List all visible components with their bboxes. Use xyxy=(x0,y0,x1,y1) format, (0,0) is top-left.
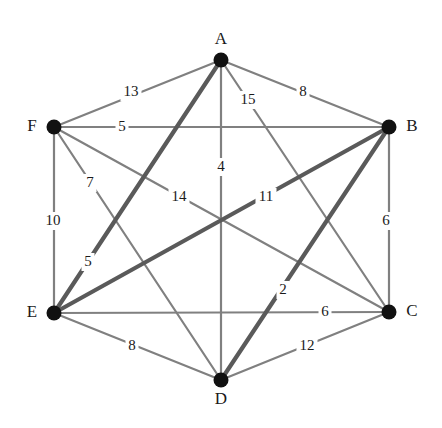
edge-weight-label-e-c: 6 xyxy=(321,303,329,319)
edge-weight-label-e-d: 8 xyxy=(128,337,136,353)
node-label-d: D xyxy=(215,389,227,408)
edge-weight-label-f-e: 10 xyxy=(46,212,61,228)
edge-weight-label-c-d: 12 xyxy=(300,337,315,353)
edge-weight-label-a-f: 13 xyxy=(124,83,139,99)
node-label-e: E xyxy=(27,302,37,321)
node-label-b: B xyxy=(406,116,417,135)
edge-weight-label-a-e: 14 xyxy=(172,188,188,204)
edge-weight-label-f-d: 11 xyxy=(259,188,273,204)
edge-weight-label-b-c: 6 xyxy=(382,212,390,228)
edge-weight-label-a-d: 4 xyxy=(217,158,225,174)
node-label-c: C xyxy=(406,301,417,320)
node-label-f: F xyxy=(27,116,36,135)
node-d[interactable] xyxy=(214,373,229,388)
node-a[interactable] xyxy=(214,53,229,68)
edge-weight-label-a-b: 8 xyxy=(299,83,307,99)
node-e[interactable] xyxy=(47,306,62,321)
edge-weight-label-e-b: 5 xyxy=(84,253,92,269)
weighted-graph-diagram: 138154145710115686212 ABCDEF xyxy=(0,0,442,428)
graph-canvas: 138154145710115686212 ABCDEF xyxy=(0,0,442,428)
edge-weight-label-f-b: 5 xyxy=(118,118,126,134)
node-label-a: A xyxy=(215,29,228,48)
edge-e-c xyxy=(54,312,389,313)
edge-weight-label-b-d: 2 xyxy=(279,281,287,297)
node-f[interactable] xyxy=(47,120,62,135)
edge-weight-label-f-c: 7 xyxy=(86,174,94,190)
node-c[interactable] xyxy=(382,305,397,320)
node-b[interactable] xyxy=(382,120,397,135)
edge-weight-label-a-c: 15 xyxy=(241,91,256,107)
